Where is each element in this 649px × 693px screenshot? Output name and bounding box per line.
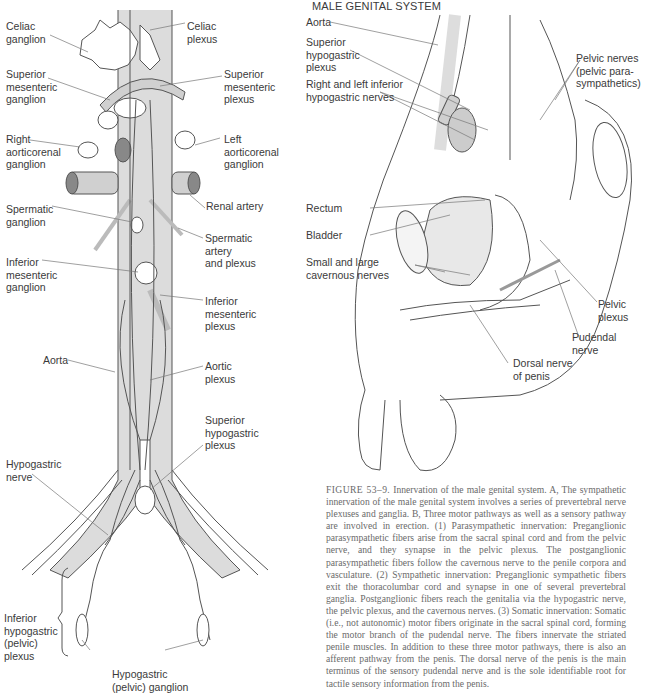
caption-text: Innervation of the male genital system. … bbox=[326, 484, 626, 689]
label-rectum: Rectum bbox=[306, 202, 342, 215]
label-hypogastric-ganglion: Hypogastric (pelvic) ganglion bbox=[112, 668, 188, 693]
label-inferior-hypogastric-nerves: Right and left inferior hypogastric nerv… bbox=[306, 78, 403, 103]
label-spermatic-artery-plexus: Spermatic artery and plexus bbox=[205, 232, 256, 270]
label-pudendal-nerve: Pudendal nerve bbox=[572, 331, 616, 356]
label-superior-mesenteric-plexus: Superior mesenteric plexus bbox=[224, 68, 275, 106]
label-superior-hypogastric-plexus-b: Superior hypogastric plexus bbox=[306, 36, 360, 74]
label-aorta-b: Aorta bbox=[306, 16, 331, 29]
label-right-aorticorenal-ganglion: Right aorticorenal ganglion bbox=[6, 133, 61, 171]
label-pelvic-plexus: Pelvic plexus bbox=[598, 298, 628, 323]
label-pelvic-nerves: Pelvic nerves (pelvic para- sympathetics… bbox=[576, 52, 641, 90]
label-celiac-plexus: Celiac plexus bbox=[187, 20, 217, 45]
figure-caption: FIGURE 53–9. Innervation of the male gen… bbox=[326, 484, 626, 690]
label-aortic-plexus: Aortic plexus bbox=[205, 360, 235, 385]
label-inferior-mesenteric-ganglion: Inferior mesenteric ganglion bbox=[6, 256, 57, 294]
label-superior-mesenteric-ganglion: Superior mesenteric ganglion bbox=[6, 68, 57, 106]
label-dorsal-nerve-of-penis: Dorsal nerve of penis bbox=[513, 357, 573, 382]
figure-number: FIGURE 53–9. bbox=[326, 484, 390, 495]
label-cavernous-nerves: Small and large cavernous nerves bbox=[306, 256, 389, 281]
label-celiac-ganglion: Celiac ganglion bbox=[6, 20, 46, 45]
label-spermatic-ganglion: Spermatic ganglion bbox=[6, 203, 53, 228]
label-bladder: Bladder bbox=[306, 229, 342, 242]
label-hypogastric-nerve: Hypogastric nerve bbox=[6, 458, 61, 483]
label-inferior-mesenteric-plexus: Inferior mesenteric plexus bbox=[205, 295, 256, 333]
panel-title: MALE GENITAL SYSTEM bbox=[312, 0, 441, 12]
label-left-aorticorenal-ganglion: Left aorticorenal ganglion bbox=[224, 133, 279, 171]
label-superior-hypogastric-plexus-a: Superior hypogastric plexus bbox=[205, 414, 259, 452]
label-inferior-hypogastric-plexus: Inferior hypogastric (pelvic) plexus bbox=[4, 612, 58, 662]
label-renal-artery: Renal artery bbox=[206, 200, 263, 213]
label-aorta-a: Aorta bbox=[43, 354, 68, 367]
